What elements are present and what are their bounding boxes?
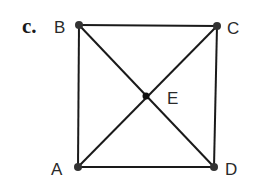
point-e	[143, 93, 150, 100]
point-a	[74, 163, 82, 171]
point-b	[75, 21, 83, 29]
point-d	[210, 163, 218, 171]
point-c	[213, 22, 221, 30]
label-e: E	[167, 89, 178, 108]
label-d: D	[225, 160, 237, 177]
diagram-canvas: c. B C E A D	[0, 0, 255, 177]
part-label: c.	[22, 14, 37, 38]
segment-cd	[214, 26, 217, 167]
segment-ab	[78, 25, 79, 167]
segment-bc	[79, 25, 217, 26]
label-a: A	[51, 160, 63, 177]
label-b: B	[54, 18, 65, 37]
square-diagram: c. B C E A D	[0, 0, 255, 177]
label-c: C	[227, 19, 239, 38]
